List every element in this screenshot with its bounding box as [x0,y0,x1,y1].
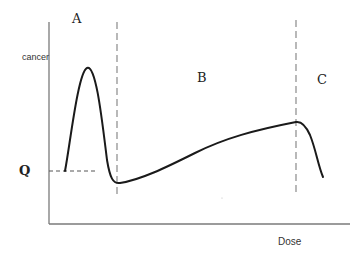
response-curve [65,68,323,183]
region-a-label: A [71,11,82,26]
chart: A B C Q cancer Dose [0,0,364,260]
speck [221,197,222,198]
x-axis-label: Dose [278,236,302,247]
region-c-label: C [317,72,327,87]
q-label: Q [19,163,30,178]
region-b-label: B [197,70,207,85]
y-axis-label: cancer [22,52,49,62]
